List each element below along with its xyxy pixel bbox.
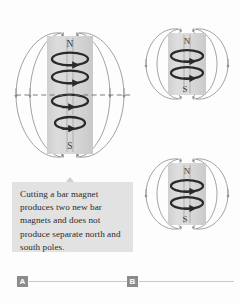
physics-figure-bar-magnet-cutting: N S [0,0,240,304]
panel-b-magnet-bottom: N S [146,159,228,229]
panel-b-bottom-north-label: N [184,166,191,176]
panel-a-south-label: S [67,141,72,151]
panel-label-a: A [17,276,28,287]
panel-b-top-north-label: N [184,36,191,46]
panel-b-top-south-label: S [182,84,187,94]
panel-a-diagram: N S [16,33,133,157]
panel-rule-b [139,281,234,282]
panel-b-bottom-south-label: S [182,214,187,224]
figure-canvas: N S [0,0,240,304]
panel-a-north-label: N [67,39,74,49]
panel-b-magnet-top: N S [146,29,228,99]
caption-text: Cutting a bar magnet produces two new ba… [20,188,126,254]
caption-callout: Cutting a bar magnet produces two new ba… [12,182,133,252]
panel-rule-b-left [108,281,126,282]
panel-label-b: B [127,276,138,287]
